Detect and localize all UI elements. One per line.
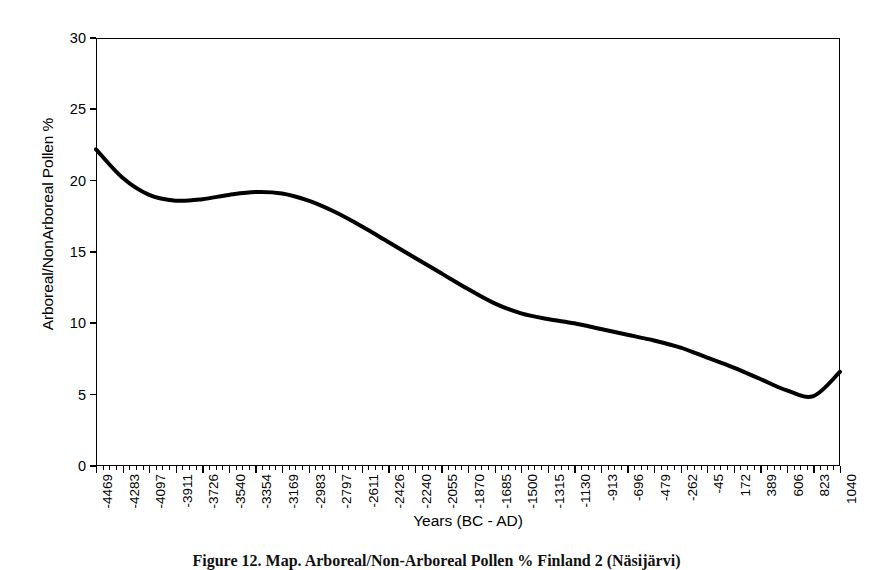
x-axis-tick-label: -1315 (553, 474, 567, 509)
y-axis-title: Arboreal/NonArboreal Pollen % (39, 74, 57, 374)
x-axis-tick-mark (840, 466, 841, 473)
x-axis-title: Years (BC - AD) (96, 512, 840, 530)
x-axis-tick-label: -2240 (420, 474, 434, 509)
x-axis-tick-label: -3169 (287, 474, 301, 509)
y-axis-tick-label: 15 (58, 245, 86, 260)
x-axis-tick-label: 823 (818, 474, 832, 497)
y-axis-tick-label: 5 (58, 388, 86, 403)
x-axis-tick-label: -913 (606, 474, 620, 501)
x-axis-tick-label: 172 (739, 474, 753, 497)
x-axis-tick-label: -3911 (181, 474, 195, 508)
y-axis-tick-label: 25 (58, 102, 86, 117)
x-axis-tick-label: -3354 (260, 474, 274, 509)
x-axis-tick-labels: -4469-4283-4097-3911-3726-3540-3354-3169… (96, 466, 840, 512)
x-axis-tick-label: -1500 (526, 474, 540, 509)
x-axis-tick-label: -4097 (154, 474, 168, 509)
x-axis-tick-label: -45 (712, 474, 726, 494)
x-axis-tick-label: -1685 (500, 474, 514, 509)
x-axis-tick-label: 1040 (845, 474, 859, 504)
y-axis-tick-label: 30 (58, 31, 86, 46)
figure-caption: Figure 12. Map. Arboreal/Non-Arboreal Po… (0, 551, 873, 570)
y-axis-tick-label: 10 (58, 316, 86, 331)
x-axis-tick-label: -1870 (473, 474, 487, 509)
x-axis-tick-label: 389 (765, 474, 779, 497)
chart-plot (96, 38, 840, 466)
x-axis-tick-label: -1130 (579, 474, 593, 508)
x-axis-tick-label: -4469 (101, 474, 115, 509)
x-axis-tick-label: -479 (659, 474, 673, 501)
data-series-line (96, 149, 840, 397)
x-axis-tick-label: -2983 (314, 474, 328, 509)
y-axis-tick-label: 0 (58, 459, 86, 474)
x-axis-tick-label: -4283 (128, 474, 142, 509)
x-axis-tick-label: -2797 (340, 474, 354, 509)
x-axis-tick-label: -262 (686, 474, 700, 501)
x-axis-tick-label: -2611 (367, 474, 381, 508)
y-axis-tick-label: 20 (58, 174, 86, 189)
x-axis-tick-label: 606 (792, 474, 806, 497)
x-axis-tick-label: -696 (632, 474, 646, 501)
x-axis-tick-label: -3726 (207, 474, 221, 509)
x-axis-tick-label: -2426 (393, 474, 407, 509)
x-axis-tick-label: -2055 (446, 474, 460, 509)
x-axis-tick-label: -3540 (234, 474, 248, 509)
